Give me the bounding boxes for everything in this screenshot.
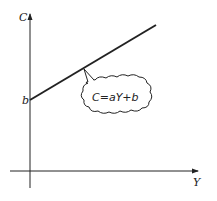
x-axis-label: Y [193,176,202,189]
callout-tail [84,69,94,82]
intercept-label: b [22,94,29,107]
equation-text: C=aY+b [92,91,139,104]
consumption-function-diagram: C Y b C=aY+b [0,0,217,201]
y-axis-label: C [19,11,28,24]
equation-callout: C=aY+b [81,69,152,113]
